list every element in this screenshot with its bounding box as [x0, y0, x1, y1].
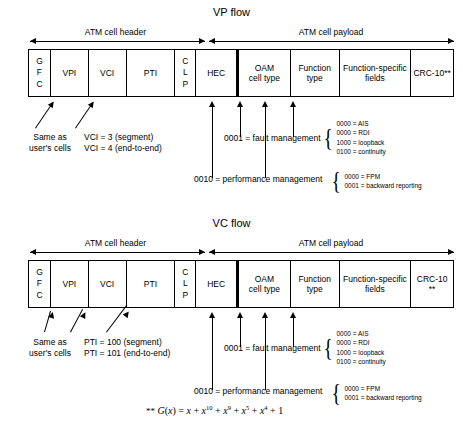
- vp-field-vpi: VPI: [51, 50, 89, 96]
- vc-fm-item-rdi: 0000 = RDI: [336, 338, 385, 347]
- vc-field-vci: VCI: [89, 261, 127, 307]
- vp-fault-management-label: 0001 = fault management: [224, 133, 321, 144]
- vp-field-function-type: Function type: [291, 50, 340, 96]
- vp-pm-item-fpm: 0000 = FPM: [344, 172, 421, 181]
- vc-performance-management-group: { 0000 = FPM 0001 = backward reporting: [330, 380, 422, 406]
- vc-field-oam-cell-type: OAM cell type: [237, 261, 291, 307]
- vc-header-span-arrow: [30, 249, 205, 256]
- vp-flow-title: VP flow: [0, 6, 463, 18]
- vc-note-pti-values: PTI = 100 (segment) PTI = 101 (end-to-en…: [84, 337, 170, 359]
- vc-atm-cell: G F C VPI VCI PTI C L P HEC OAM cell typ…: [28, 260, 454, 308]
- crc-polynomial-footnote: ** G(x) = x + x10 + x9 + x5 + x4 + 1: [146, 404, 283, 416]
- vc-leader-pti-arrow: [123, 310, 131, 318]
- vc-flow-title: VC flow: [0, 217, 463, 229]
- vp-fm-item-rdi: 0000 = RDI: [336, 128, 385, 137]
- vp-field-clp: C L P: [175, 50, 196, 96]
- vc-flow-diagram: VC flow ATM cell header ATM cell payload…: [0, 215, 463, 405]
- vp-field-hec: HEC: [196, 50, 237, 96]
- vp-pointer-oam-a-line: [212, 107, 213, 178]
- vp-performance-management-label: 0010 = performance management: [194, 174, 322, 185]
- vp-pm-items: 0000 = FPM 0001 = backward reporting: [344, 172, 421, 191]
- vp-fm-item-loopback: 1000 = loopback: [336, 138, 385, 147]
- vp-fm-item-ais: 0000 = AIS: [336, 119, 385, 128]
- vc-field-vpi: VPI: [51, 261, 89, 307]
- brace-icon: {: [332, 380, 341, 406]
- vc-field-function-specific-fields: Function-specific fields: [340, 261, 412, 307]
- vc-field-crc: CRC-10 **: [411, 261, 453, 307]
- vc-fault-management-group: { 0000 = AIS 0000 = RDI 1000 = loopback …: [322, 329, 386, 367]
- vc-payload-span-label: ATM cell payload: [207, 238, 455, 248]
- vp-field-function-specific-fields: Function-specific fields: [340, 50, 412, 96]
- vc-fm-item-continuity: 0100 = continuity: [336, 357, 385, 366]
- vp-leader-vpi-line: [35, 103, 53, 128]
- vc-field-gfc: G F C: [29, 261, 51, 307]
- vp-fault-management-group: { 0000 = AIS 0000 = RDI 1000 = loopback …: [322, 119, 386, 157]
- vp-header-span-arrow: [30, 38, 205, 45]
- vc-pointer-oam-a-line: [212, 318, 213, 390]
- vc-pm-items: 0000 = FPM 0001 = backward reporting: [344, 384, 421, 403]
- vc-header-span-label: ATM cell header: [28, 238, 203, 248]
- brace-icon: {: [324, 125, 333, 151]
- vc-fault-management-items: 0000 = AIS 0000 = RDI 1000 = loopback 01…: [336, 329, 385, 367]
- vc-note-same-as-user-cells: Same as user's cells: [22, 337, 78, 359]
- vc-fm-item-ais: 0000 = AIS: [336, 329, 385, 338]
- brace-icon: {: [324, 335, 333, 361]
- vp-header-span-label: ATM cell header: [28, 27, 203, 37]
- vp-leader-vci-line: [75, 103, 93, 128]
- vp-field-gfc: G F C: [29, 50, 51, 96]
- vp-fault-management-items: 0000 = AIS 0000 = RDI 1000 = loopback 01…: [336, 119, 385, 157]
- vc-pm-item-fpm: 0000 = FPM: [344, 384, 421, 393]
- vp-payload-span-label: ATM cell payload: [207, 27, 455, 37]
- footnote-marker: **: [146, 406, 155, 416]
- vc-field-hec: HEC: [196, 261, 237, 307]
- vp-field-crc: CRC-10**: [411, 50, 453, 96]
- vc-leader-vpi-arrow: [48, 311, 55, 318]
- vp-field-pti: PTI: [127, 50, 176, 96]
- vp-pm-item-backward-reporting: 0001 = backward reporting: [344, 181, 421, 190]
- vp-performance-management-group: { 0000 = FPM 0001 = backward reporting: [330, 168, 422, 194]
- vp-atm-cell: G F C VPI VCI PTI C L P HEC OAM cell typ…: [28, 49, 454, 97]
- vp-note-vci-values: VCI = 3 (segment) VCI = 4 (end-to-end): [84, 132, 162, 154]
- vp-note-same-as-user-cells: Same as user's cells: [22, 132, 78, 154]
- vc-field-function-type: Function type: [291, 261, 340, 307]
- vp-flow-diagram: VP flow ATM cell header ATM cell payload…: [0, 0, 463, 215]
- vp-field-oam-cell-type: OAM cell type: [237, 50, 291, 96]
- vc-leader-vci-arrow: [80, 311, 88, 319]
- vp-field-vci: VCI: [89, 50, 127, 96]
- vc-fm-item-loopback: 1000 = loopback: [336, 348, 385, 357]
- vc-field-pti: PTI: [127, 261, 176, 307]
- vc-payload-span-arrow: [209, 249, 454, 256]
- vc-fault-management-label: 0001 = fault management: [224, 343, 321, 354]
- vc-performance-management-label: 0010 = performance management: [194, 386, 322, 397]
- brace-icon: {: [332, 168, 341, 194]
- vc-field-clp: C L P: [175, 261, 196, 307]
- vp-payload-span-arrow: [209, 38, 454, 45]
- vc-pm-item-backward-reporting: 0001 = backward reporting: [344, 393, 421, 402]
- vc-leader-pti-line: [106, 305, 127, 333]
- vp-fm-item-continuity: 0100 = continuity: [336, 147, 385, 156]
